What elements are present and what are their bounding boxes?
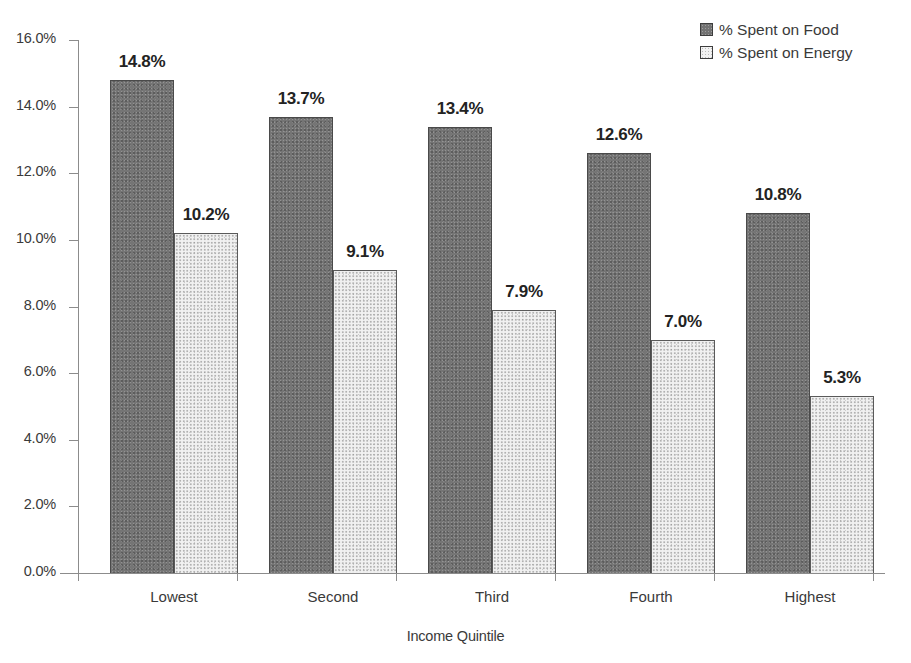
- bar-food-highest: [746, 213, 810, 573]
- y-axis-tick-mark: [69, 107, 78, 108]
- y-axis-tick-mark: [69, 40, 78, 41]
- x-axis-tick-mark: [396, 573, 397, 581]
- y-axis-tick-mark: [69, 440, 78, 441]
- y-axis-tick-label: 16.0%: [16, 30, 56, 46]
- y-axis-tick-label: 0.0%: [24, 563, 56, 579]
- y-axis-tick-label: 12.0%: [16, 163, 56, 179]
- bar-value-label-energy-third: 7.9%: [484, 282, 564, 302]
- bar-value-label-food-fourth: 12.6%: [579, 125, 659, 145]
- y-axis-tick-label: 6.0%: [24, 363, 56, 379]
- bar-value-label-food-highest: 10.8%: [738, 185, 818, 205]
- bar-value-label-food-second: 13.7%: [261, 89, 341, 109]
- bar-food-second: [269, 117, 333, 573]
- bar-value-label-energy-second: 9.1%: [325, 242, 405, 262]
- legend-swatch-energy-icon: [700, 46, 713, 59]
- x-axis-tick-mark: [78, 573, 79, 581]
- y-axis-tick-label: 10.0%: [16, 230, 56, 246]
- legend-entry-energy: % Spent on Energy: [700, 45, 853, 61]
- bar-food-third: [428, 127, 492, 573]
- x-axis-line: [60, 573, 885, 574]
- bar-energy-lowest: [174, 233, 238, 573]
- y-axis-tick-mark: [69, 506, 78, 507]
- bar-energy-second: [333, 270, 397, 573]
- bar-food-fourth: [587, 153, 651, 573]
- x-axis-category-label-lowest: Lowest: [104, 588, 244, 605]
- x-axis-category-label-second: Second: [263, 588, 403, 605]
- x-axis-category-label-third: Third: [422, 588, 562, 605]
- y-axis-tick-label: 14.0%: [16, 97, 56, 113]
- bar-energy-highest: [810, 396, 874, 573]
- x-axis-tick-mark: [237, 573, 238, 581]
- y-axis-tick-mark: [69, 173, 78, 174]
- bar-value-label-energy-fourth: 7.0%: [643, 312, 723, 332]
- y-axis-tick-mark: [69, 307, 78, 308]
- x-axis-category-label-highest: Highest: [740, 588, 880, 605]
- bar-value-label-energy-highest: 5.3%: [802, 368, 882, 388]
- x-axis-tick-mark: [714, 573, 715, 581]
- bar-energy-fourth: [651, 340, 715, 573]
- bar-value-label-energy-lowest: 10.2%: [166, 205, 246, 225]
- legend-label-energy: % Spent on Energy: [719, 45, 853, 61]
- y-axis-line: [78, 40, 79, 573]
- y-axis-tick-label: 2.0%: [24, 496, 56, 512]
- y-axis-tick-label: 4.0%: [24, 430, 56, 446]
- x-axis-tick-mark: [873, 573, 874, 581]
- legend-entry-food: % Spent on Food: [700, 22, 853, 38]
- x-axis-tick-mark: [555, 573, 556, 581]
- bar-energy-third: [492, 310, 556, 573]
- y-axis-tick-mark: [69, 573, 78, 574]
- y-axis-tick-label: 8.0%: [24, 297, 56, 313]
- bar-value-label-food-lowest: 14.8%: [102, 52, 182, 72]
- legend-label-food: % Spent on Food: [719, 22, 839, 38]
- bar-chart: % Spent on Food % Spent on Energy 16.0%1…: [0, 0, 911, 663]
- chart-legend: % Spent on Food % Spent on Energy: [700, 22, 853, 60]
- bar-food-lowest: [110, 80, 174, 573]
- y-axis-tick-mark: [69, 373, 78, 374]
- x-axis-title: Income Quintile: [0, 628, 911, 644]
- legend-swatch-food-icon: [700, 23, 713, 36]
- bar-value-label-food-third: 13.4%: [420, 99, 500, 119]
- y-axis-tick-mark: [69, 240, 78, 241]
- x-axis-category-label-fourth: Fourth: [581, 588, 721, 605]
